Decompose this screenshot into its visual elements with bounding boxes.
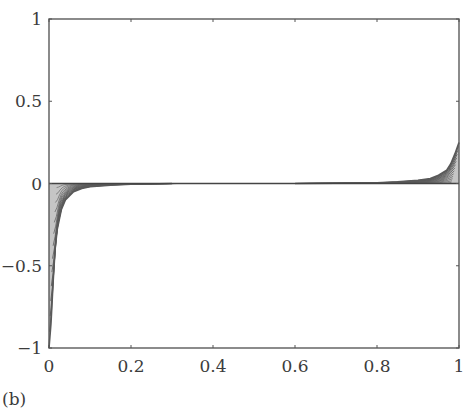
y-tick-label: −1 bbox=[17, 338, 42, 358]
x-tick-label: 0.6 bbox=[281, 356, 308, 376]
y-tick-label: 0 bbox=[31, 174, 42, 194]
x-tick-label: 0 bbox=[44, 356, 55, 376]
chart-figure: 00.20.40.60.81 −1−0.500.51 (b) bbox=[0, 0, 464, 413]
curve bbox=[51, 184, 174, 287]
curve bbox=[49, 184, 172, 349]
panel-label: (b) bbox=[2, 389, 26, 409]
y-tick-label: 1 bbox=[31, 9, 42, 29]
curve-fill bbox=[295, 142, 459, 183]
y-tick-label: 0.5 bbox=[15, 91, 42, 111]
x-axis: 00.20.40.60.81 bbox=[44, 19, 464, 376]
curve bbox=[51, 184, 174, 301]
x-tick-label: 0.8 bbox=[363, 356, 390, 376]
curve-fill bbox=[49, 184, 172, 349]
y-tick-label: −0.5 bbox=[1, 256, 42, 276]
curve bbox=[50, 184, 173, 332]
curve bbox=[52, 184, 175, 273]
x-tick-label: 0.4 bbox=[199, 356, 226, 376]
x-tick-label: 0.2 bbox=[117, 356, 144, 376]
curve bbox=[50, 184, 173, 317]
curve-family bbox=[49, 142, 459, 348]
x-tick-label: 1 bbox=[454, 356, 464, 376]
